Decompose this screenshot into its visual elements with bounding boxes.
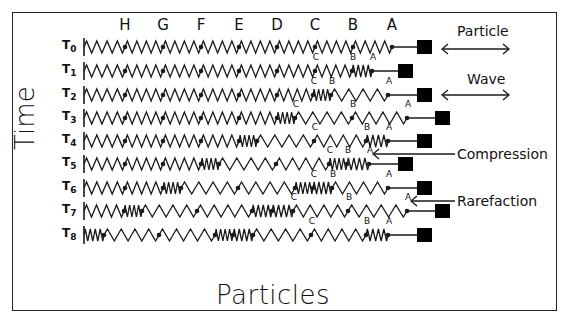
- column-label-b: B: [348, 16, 358, 34]
- time-label-t4: T4: [62, 132, 76, 148]
- time-label-t6: T6: [62, 179, 76, 195]
- mark-label-c: C: [311, 169, 317, 179]
- spring-chain: [84, 229, 388, 241]
- particle-dot-c: [313, 69, 318, 74]
- particle-dot-e: [237, 93, 242, 98]
- wave-legend-label: Wave: [467, 71, 505, 87]
- spring-chain: [84, 112, 407, 124]
- particle-dot-d: [275, 45, 280, 50]
- driver-block: [417, 88, 432, 102]
- spring-chain: [84, 89, 388, 101]
- particle-dot-b: [345, 162, 350, 167]
- mark-label-b: B: [364, 122, 370, 132]
- mark-label-c: C: [312, 122, 318, 132]
- particle-dot-a: [390, 45, 395, 50]
- particle-dot-d: [275, 69, 280, 74]
- driver-block: [417, 134, 432, 148]
- particle-dot-e: [237, 139, 242, 144]
- driver-block: [435, 204, 450, 218]
- particle-dot-f: [199, 93, 204, 98]
- particle-dot-c: [311, 186, 316, 191]
- column-label-d: D: [271, 16, 283, 34]
- mark-label-b: B: [346, 192, 352, 202]
- particle-dot-a: [386, 233, 391, 238]
- mark-label-a: A: [386, 76, 392, 86]
- particle-dot-f: [199, 162, 204, 167]
- mark-label-a: A: [405, 192, 411, 202]
- mark-label-b: B: [350, 52, 356, 62]
- particle-dot-h: [122, 209, 127, 214]
- particle-dot-d: [255, 139, 260, 144]
- particle-dot-d: [293, 186, 298, 191]
- particle-dot-b: [350, 116, 355, 121]
- particle-dot-e: [217, 162, 222, 167]
- particle-dot-b: [329, 93, 334, 98]
- mark-label-c: C: [293, 99, 299, 109]
- column-label-g: G: [157, 16, 169, 34]
- particle-dot-a: [405, 209, 410, 214]
- particle-dot-b: [364, 139, 369, 144]
- time-label-t1: T1: [62, 62, 76, 78]
- column-label-h: H: [119, 16, 130, 34]
- mark-label-b: B: [364, 216, 370, 226]
- time-label-t0: T0: [62, 38, 76, 54]
- column-label-a: A: [387, 16, 397, 34]
- particle-dot-c: [293, 116, 298, 121]
- particle-dot-g: [161, 45, 166, 50]
- spring-chain: [84, 205, 407, 217]
- mark-label-b: B: [329, 76, 335, 86]
- particle-dot-a: [386, 186, 391, 191]
- rarefaction-label: Rarefaction: [457, 193, 537, 209]
- mark-label-a: A: [367, 145, 373, 155]
- particle-dot-e: [237, 69, 242, 74]
- particle-dot-b: [364, 233, 369, 238]
- particle-dot-e: [237, 116, 242, 121]
- driver-block: [435, 111, 450, 125]
- particle-dot-g: [161, 69, 166, 74]
- particle-dot-f: [179, 186, 184, 191]
- particle-dot-f: [199, 116, 204, 121]
- mark-label-b: B: [330, 169, 336, 179]
- time-label-t8: T8: [62, 226, 76, 242]
- mark-label-c: C: [327, 145, 333, 155]
- mark-label-c: C: [311, 76, 317, 86]
- time-label-t7: T7: [62, 202, 76, 218]
- x-axis-label: Particles: [216, 280, 330, 310]
- particle-dot-g: [157, 233, 162, 238]
- particle-dot-d: [251, 233, 256, 238]
- particle-dot-h: [123, 93, 128, 98]
- particle-dot-b: [346, 209, 351, 214]
- mark-label-a: A: [405, 99, 411, 109]
- particle-dot-e: [250, 209, 255, 214]
- particle-dot-a: [367, 162, 372, 167]
- particle-dot-c: [309, 233, 314, 238]
- particle-dot-a: [370, 69, 375, 74]
- particle-dot-g: [161, 116, 166, 121]
- particle-dot-b: [350, 69, 355, 74]
- particle-dot-d: [270, 209, 275, 214]
- mark-label-b: B: [350, 99, 356, 109]
- particle-dot-g: [161, 186, 166, 191]
- spring-chain: [84, 135, 388, 147]
- particle-dot-d: [275, 116, 280, 121]
- y-axis-label: Time: [10, 86, 40, 150]
- mark-label-c: C: [291, 192, 297, 202]
- mark-label-a: A: [370, 52, 376, 62]
- particle-dot-c: [313, 45, 318, 50]
- particle-dot-h: [123, 116, 128, 121]
- particle-legend-label: Particle: [457, 23, 509, 39]
- time-label-t5: T5: [62, 155, 76, 171]
- particle-dot-h: [123, 162, 128, 167]
- particle-dot-g: [140, 209, 145, 214]
- particle-dot-f: [199, 45, 204, 50]
- particle-dot-f: [213, 233, 218, 238]
- mark-label-a: A: [386, 216, 392, 226]
- particle-dot-h: [123, 186, 128, 191]
- particle-dot-d: [275, 93, 280, 98]
- particle-dot-c: [327, 162, 332, 167]
- particle-dot-a: [386, 139, 391, 144]
- driver-block: [398, 64, 413, 78]
- driver-block: [398, 157, 413, 171]
- mark-label-c: C: [313, 52, 319, 62]
- particle-dot-c: [312, 139, 317, 144]
